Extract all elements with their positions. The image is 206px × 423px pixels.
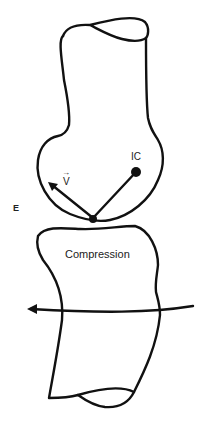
joint-diagram	[0, 0, 206, 423]
upper-bone-top	[63, 18, 148, 41]
compression-label: Compression	[65, 248, 130, 260]
contact-point	[89, 215, 97, 223]
velocity-label: V	[63, 176, 70, 187]
rotation-arrowhead-icon	[27, 304, 37, 314]
ic-point	[131, 167, 141, 177]
instant-center-label: IC	[131, 151, 141, 162]
lower-bone-bottom-loop	[78, 389, 134, 395]
side-label: E	[13, 203, 19, 213]
upper-bone-outline	[38, 36, 163, 221]
rotation-arrow	[31, 306, 193, 312]
